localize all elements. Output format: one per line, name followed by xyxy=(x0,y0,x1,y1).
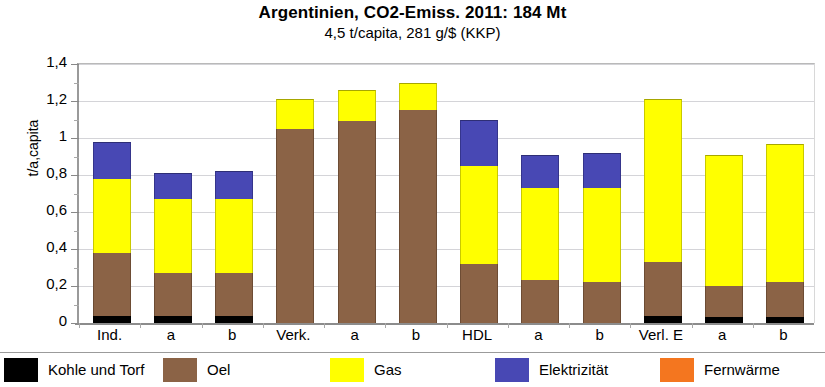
stacked-bar[interactable] xyxy=(399,83,437,324)
x-axis-tick-label: b xyxy=(748,326,818,344)
bar-segment-gas xyxy=(93,179,131,253)
stacked-bar[interactable] xyxy=(521,155,559,323)
stacked-bar[interactable] xyxy=(154,173,192,323)
gridline xyxy=(79,101,814,102)
stacked-bar[interactable] xyxy=(705,155,743,323)
bar-segment-gas xyxy=(644,99,682,262)
x-axis-tick-label: Ind. xyxy=(75,326,145,344)
bar-segment-coal xyxy=(93,316,131,323)
bar-segment-oil xyxy=(766,282,804,317)
x-axis-tick-label: Verk. xyxy=(258,326,328,344)
bar-segment-gas xyxy=(338,90,376,121)
stacked-bar[interactable] xyxy=(338,90,376,323)
stacked-bar[interactable] xyxy=(276,99,314,323)
x-axis-tick-label: HDL xyxy=(442,326,512,344)
stacked-bar[interactable] xyxy=(93,142,131,323)
legend-swatch-oil-icon xyxy=(163,358,197,382)
y-axis-major-tick xyxy=(71,101,79,102)
y-axis-tick-label: 1,4 xyxy=(5,55,67,69)
legend-swatch-elec-icon xyxy=(495,358,529,382)
y-axis-minor-tick xyxy=(74,120,79,121)
bar-segment-elec xyxy=(583,153,621,188)
y-axis-major-tick xyxy=(71,286,79,287)
y-axis-tick-label: 0,8 xyxy=(5,166,67,180)
bar-segment-coal xyxy=(154,316,192,323)
bar-segment-oil xyxy=(583,282,621,323)
legend-item[interactable]: Fernwärme xyxy=(660,358,780,382)
bar-segment-oil xyxy=(644,262,682,316)
x-axis-tick-label: b xyxy=(381,326,451,344)
bar-segment-oil xyxy=(521,280,559,323)
y-axis-minor-tick xyxy=(74,83,79,84)
legend-swatch-coal-icon xyxy=(4,358,38,382)
bar-segment-gas xyxy=(276,99,314,129)
bar-segment-gas xyxy=(460,166,498,264)
y-axis-title: t/a,capita xyxy=(25,93,41,203)
y-axis-minor-tick xyxy=(74,157,79,158)
y-axis-tick-label: 0 xyxy=(5,314,67,328)
chart-subtitle: 4,5 t/capita, 281 g/$ (KKP) xyxy=(0,23,825,42)
bar-segment-oil xyxy=(215,273,253,316)
bar-segment-oil xyxy=(154,273,192,316)
legend-swatch-heat-icon xyxy=(660,358,694,382)
x-axis-tick-label: a xyxy=(687,326,757,344)
x-axis-tick-label: a xyxy=(320,326,390,344)
y-axis-tick-label: 1,2 xyxy=(5,92,67,106)
bar-segment-elec xyxy=(154,173,192,199)
stacked-bar[interactable] xyxy=(583,153,621,323)
stacked-bar[interactable] xyxy=(215,171,253,323)
stacked-bar[interactable] xyxy=(460,120,498,323)
legend-item[interactable]: Kohle und Torf xyxy=(4,358,144,382)
legend-item[interactable]: Gas xyxy=(330,358,402,382)
legend-label: Elektrizität xyxy=(539,362,608,378)
legend-item[interactable]: Oel xyxy=(163,358,230,382)
y-axis-minor-tick xyxy=(74,268,79,269)
chart-figure: Argentinien, CO2-Emiss. 2011: 184 Mt 4,5… xyxy=(0,0,825,387)
legend-label: Oel xyxy=(207,362,230,378)
x-axis-tick-label: b xyxy=(565,326,635,344)
chart-title: Argentinien, CO2-Emiss. 2011: 184 Mt xyxy=(0,2,825,23)
bar-segment-gas xyxy=(154,199,192,273)
stacked-bar[interactable] xyxy=(766,144,804,323)
y-axis-minor-tick xyxy=(74,231,79,232)
y-axis-major-tick xyxy=(71,249,79,250)
bar-segment-coal xyxy=(215,316,253,323)
legend-label: Kohle und Torf xyxy=(48,362,144,378)
y-axis-major-tick xyxy=(71,212,79,213)
legend-label: Fernwärme xyxy=(704,362,780,378)
bar-segment-gas xyxy=(583,188,621,282)
x-axis-tick-label: Verl. E xyxy=(626,326,696,344)
bar-segment-gas xyxy=(766,144,804,283)
y-axis-minor-tick xyxy=(74,194,79,195)
bar-segment-elec xyxy=(93,142,131,179)
legend-swatch-gas-icon xyxy=(330,358,364,382)
gridline xyxy=(79,138,814,139)
x-axis-tick-label: b xyxy=(197,326,267,344)
chart-legend: Kohle und TorfOelGasElektrizitätFernwärm… xyxy=(0,352,825,387)
y-axis-major-tick xyxy=(71,138,79,139)
x-axis-tick-label: a xyxy=(136,326,206,344)
bar-segment-gas xyxy=(399,83,437,111)
bar-segment-coal xyxy=(644,316,682,323)
bar-segment-elec xyxy=(521,155,559,188)
x-axis-baseline xyxy=(75,323,814,325)
gridline xyxy=(79,64,814,65)
legend-item[interactable]: Elektrizität xyxy=(495,358,608,382)
stacked-bar[interactable] xyxy=(644,99,682,323)
y-axis-tick-label: 0,6 xyxy=(5,203,67,217)
bar-segment-oil xyxy=(338,121,376,323)
y-axis-tick-label: 0,2 xyxy=(5,277,67,291)
y-axis-tick-label: 0,4 xyxy=(5,240,67,254)
y-axis-tick-label: 1 xyxy=(5,129,67,143)
x-axis-tick-label: a xyxy=(503,326,573,344)
plot-area xyxy=(77,63,815,323)
bar-segment-elec xyxy=(460,120,498,166)
bar-segment-gas xyxy=(705,155,743,286)
title-block: Argentinien, CO2-Emiss. 2011: 184 Mt 4,5… xyxy=(0,2,825,42)
y-axis-minor-tick xyxy=(74,305,79,306)
y-axis-major-tick xyxy=(71,64,79,65)
bar-segment-oil xyxy=(460,264,498,323)
bar-segment-oil xyxy=(705,286,743,317)
bar-segment-oil xyxy=(399,110,437,323)
bar-segment-oil xyxy=(93,253,131,316)
